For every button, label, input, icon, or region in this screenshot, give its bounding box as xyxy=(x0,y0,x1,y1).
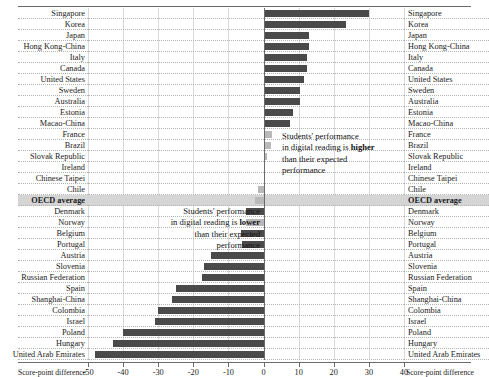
category-row-left: Belgium xyxy=(18,228,88,239)
category-label: Spain xyxy=(66,283,88,294)
category-label: Belgium xyxy=(56,228,88,239)
chart-row xyxy=(88,118,404,129)
bar xyxy=(204,263,264,270)
category-row-right: Macao-China xyxy=(404,118,489,129)
category-label: Chile xyxy=(67,184,88,195)
axis-tick xyxy=(334,363,335,367)
annotation-lower-line4: performance xyxy=(108,240,260,251)
chart-row xyxy=(88,294,404,305)
category-label: Portugal xyxy=(404,239,436,250)
category-label: Macao-China xyxy=(40,118,88,129)
category-label: Korea xyxy=(65,19,88,30)
annotation-higher-line2a: in digital reading is xyxy=(282,142,351,152)
category-row-left: Chile xyxy=(18,184,88,195)
category-label: Slovak Republic xyxy=(404,151,463,162)
category-row-left: Israel xyxy=(18,316,88,327)
category-label: Hungary xyxy=(404,338,437,349)
bar xyxy=(264,98,301,105)
chart-row xyxy=(88,63,404,74)
annotation-higher-line3: than their expected xyxy=(282,154,410,165)
category-row-left: Japan xyxy=(18,30,88,41)
category-row-right: Korea xyxy=(404,19,489,30)
category-row-left: Slovenia xyxy=(18,261,88,272)
category-row-right: Sweden xyxy=(404,85,489,96)
category-label: Hong Kong-China xyxy=(23,41,88,52)
category-row-right: Estonia xyxy=(404,107,489,118)
axis-tick xyxy=(369,363,370,367)
category-row-right: Hungary xyxy=(404,338,489,349)
bar xyxy=(264,21,347,28)
category-label: Italy xyxy=(70,52,88,63)
annotation-higher-line1: Students' performance xyxy=(282,131,410,142)
bar xyxy=(264,76,304,83)
category-label: Canada xyxy=(60,63,88,74)
annotation-higher-emphasis: higher xyxy=(351,142,375,152)
bar xyxy=(264,10,369,17)
category-row-right: OECD average xyxy=(404,195,489,206)
axis-tick-label: -30 xyxy=(153,368,164,377)
chart-row xyxy=(88,19,404,30)
bar xyxy=(264,54,308,61)
category-label: Denmark xyxy=(404,206,439,217)
annotation-lower-line3: than their expected xyxy=(108,229,260,240)
axis-caption-right: Score-point difference xyxy=(406,368,474,377)
category-row-left: Spain xyxy=(18,283,88,294)
category-label: Shanghai-China xyxy=(32,294,88,305)
bar xyxy=(264,87,301,94)
category-row-left: Denmark xyxy=(18,206,88,217)
category-row-left: Norway xyxy=(18,217,88,228)
bar xyxy=(264,131,273,138)
chart-row xyxy=(88,316,404,327)
category-row-right: Norway xyxy=(404,217,489,228)
axis-tick-label: -20 xyxy=(188,368,199,377)
category-label: Korea xyxy=(404,19,428,30)
chart-row xyxy=(88,52,404,63)
axis-tick xyxy=(404,363,405,367)
category-label: Japan xyxy=(404,30,427,41)
category-label: Estonia xyxy=(60,107,88,118)
category-row-left: OECD average xyxy=(18,195,88,206)
chart-row xyxy=(88,8,404,19)
category-row-left: Russian Federation xyxy=(18,272,88,283)
category-row-left: Hungary xyxy=(18,338,88,349)
category-label: OECD average xyxy=(404,195,462,206)
category-row-left: France xyxy=(18,129,88,140)
category-label: Denmark xyxy=(54,206,88,217)
category-label: Israel xyxy=(67,316,88,327)
category-label: Brazil xyxy=(65,140,88,151)
bar xyxy=(264,43,310,50)
row-dotted-rule xyxy=(88,359,404,360)
category-row-left: Sweden xyxy=(18,85,88,96)
bar xyxy=(264,32,310,39)
category-row-left: Ireland xyxy=(18,162,88,173)
category-label: Austria xyxy=(404,250,432,261)
category-labels-right: SingaporeKoreaJapanHong Kong-ChinaItalyC… xyxy=(404,8,489,360)
axis-tick-label: -40 xyxy=(118,368,129,377)
annotation-higher-line2: in digital reading is higher xyxy=(282,142,410,153)
category-label: Sweden xyxy=(59,85,88,96)
chart-row xyxy=(88,283,404,294)
category-row-right: Belgium xyxy=(404,228,489,239)
category-label: Norway xyxy=(58,217,88,228)
category-label: Macao-China xyxy=(404,118,453,129)
axis-tick xyxy=(158,363,159,367)
axis-tick-label: 0 xyxy=(261,368,265,377)
category-label: Spain xyxy=(404,283,427,294)
category-label: United States xyxy=(404,74,452,85)
category-label: Chinese Taipei xyxy=(404,173,457,184)
category-label: Shanghai-China xyxy=(404,294,461,305)
chart-row xyxy=(88,107,404,118)
category-row-left: Canada xyxy=(18,63,88,74)
axis-tick-label: 30 xyxy=(365,368,373,377)
chart-row xyxy=(88,250,404,261)
axis-tick xyxy=(123,363,124,367)
category-row-left: Austria xyxy=(18,250,88,261)
category-label: Japan xyxy=(66,30,88,41)
category-label: Norway xyxy=(404,217,435,228)
category-row-right: Australia xyxy=(404,96,489,107)
category-label: Singapore xyxy=(51,8,88,19)
category-row-left: Italy xyxy=(18,52,88,63)
category-label: Ireland xyxy=(62,162,89,173)
bar xyxy=(264,120,290,127)
